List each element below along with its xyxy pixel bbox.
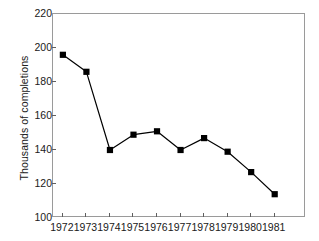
data-point-marker — [177, 147, 183, 153]
x-axis-tick-mark — [227, 213, 228, 217]
line-series-completions — [63, 55, 275, 194]
y-axis-tick-label: 160 — [26, 109, 52, 121]
data-point-marker — [272, 191, 278, 197]
x-axis-tick-mark — [109, 213, 110, 217]
y-axis-tick-label: 120 — [26, 177, 52, 189]
data-point-marker — [60, 52, 66, 58]
data-point-marker — [154, 128, 160, 134]
y-axis-tick-mark — [52, 149, 56, 150]
y-axis-tick-mark — [52, 81, 56, 82]
x-axis-tick-mark — [62, 213, 63, 217]
data-point-marker — [107, 147, 113, 153]
y-axis-tick-mark — [52, 115, 56, 116]
y-axis-tick-mark — [52, 47, 56, 48]
x-axis-tick-mark — [203, 213, 204, 217]
data-point-marker — [225, 149, 231, 155]
y-axis-tick-label: 180 — [26, 75, 52, 87]
data-point-marker — [83, 69, 89, 75]
plot-area — [52, 13, 305, 217]
y-axis-tick-label: 140 — [26, 143, 52, 155]
x-axis-tick-mark — [250, 213, 251, 217]
x-axis-tick-mark — [274, 213, 275, 217]
y-axis-tick-label: 200 — [26, 41, 52, 53]
marker-group — [60, 52, 278, 198]
y-axis-tick-label: 220 — [26, 7, 52, 19]
data-point-marker — [201, 135, 207, 141]
x-axis-tick-mark — [180, 213, 181, 217]
x-axis-tick-label: 1981 — [257, 221, 291, 233]
data-series-group — [53, 14, 306, 218]
x-axis-tick-mark — [156, 213, 157, 217]
x-axis-tick-mark — [132, 213, 133, 217]
data-point-marker — [130, 132, 136, 138]
y-axis-tick-mark — [52, 183, 56, 184]
x-axis-tick-mark — [85, 213, 86, 217]
y-axis-tick-labels: 100120140160180200220 — [22, 0, 52, 241]
data-point-marker — [248, 169, 254, 175]
chart-figure: Thousands of completions 100120140160180… — [0, 0, 319, 241]
